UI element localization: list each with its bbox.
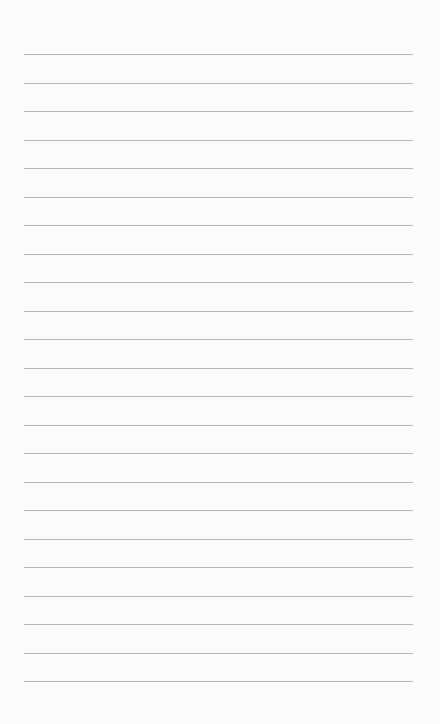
ruled-line: [24, 311, 413, 312]
ruled-line: [24, 225, 413, 226]
ruled-line: [24, 567, 413, 568]
ruled-line: [24, 168, 413, 169]
ruled-line: [24, 140, 413, 141]
ruled-line: [24, 653, 413, 654]
ruled-line: [24, 83, 413, 84]
lined-paper: [0, 0, 440, 724]
ruled-line: [24, 510, 413, 511]
ruled-line: [24, 482, 413, 483]
ruled-line: [24, 282, 413, 283]
ruled-line: [24, 425, 413, 426]
ruled-line: [24, 54, 413, 55]
ruled-line: [24, 254, 413, 255]
ruled-line: [24, 539, 413, 540]
ruled-line: [24, 111, 413, 112]
ruled-line: [24, 339, 413, 340]
ruled-line: [24, 453, 413, 454]
ruled-line: [24, 624, 413, 625]
ruled-line: [24, 596, 413, 597]
ruled-line: [24, 368, 413, 369]
ruled-line: [24, 681, 413, 682]
ruled-line: [24, 396, 413, 397]
ruled-line: [24, 197, 413, 198]
